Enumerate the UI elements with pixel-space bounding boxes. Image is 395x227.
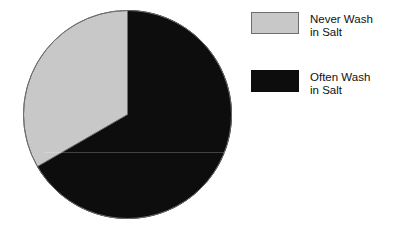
- legend-label-often-wash: Often Wash in Salt: [310, 70, 370, 96]
- legend-item-often-wash: Often Wash in Salt: [251, 70, 395, 96]
- chart-legend: Never Wash in Salt Often Wash in Salt: [251, 12, 395, 128]
- legend-swatch-often-wash: [251, 70, 299, 92]
- legend-swatch-never-wash: [251, 12, 299, 34]
- pie-chart-figure: Never Wash in Salt Often Wash in Salt: [0, 0, 395, 227]
- legend-item-never-wash: Never Wash in Salt: [251, 12, 395, 38]
- legend-label-never-wash: Never Wash in Salt: [310, 12, 373, 38]
- pie-chart: [23, 10, 232, 219]
